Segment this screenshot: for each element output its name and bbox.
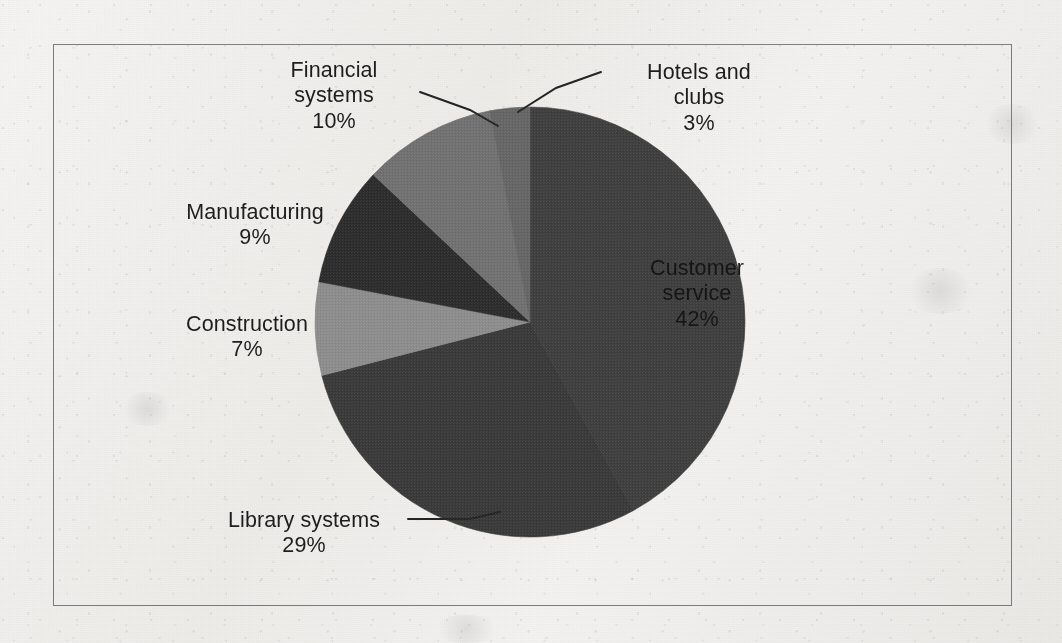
slice-label-text-line1: Financial (291, 58, 378, 82)
slice-label-hotels-and-clubs: Hotels and clubs 3% (604, 60, 794, 136)
slice-label-percent: 3% (604, 111, 794, 136)
slice-label-financial-systems: Financial systems 10% (236, 58, 432, 134)
slice-label-text-line1: Customer (650, 256, 744, 280)
slice-label-text-line2: clubs (674, 85, 725, 109)
slice-label-construction: Construction 7% (136, 312, 358, 363)
slice-label-library-systems: Library systems 29% (186, 508, 422, 559)
slice-label-text-line1: Hotels and (647, 60, 751, 84)
slice-label-text-line2: service (663, 281, 732, 305)
slice-label-text-line2: systems (294, 83, 374, 107)
slice-leader-line (518, 72, 601, 112)
slice-label-percent: 9% (140, 225, 370, 250)
slice-label-text-line1: Library systems (228, 508, 380, 532)
slice-label-percent: 10% (236, 109, 432, 134)
slice-label-customer-service: Customer service 42% (608, 256, 786, 332)
slice-label-percent: 42% (608, 307, 786, 332)
slice-label-text-line1: Construction (186, 312, 308, 336)
slice-label-percent: 29% (186, 533, 422, 558)
slice-label-text-line1: Manufacturing (186, 200, 324, 224)
pie-chart-screenshot: Financial systems 10% Hotels and clubs 3… (0, 0, 1062, 643)
slice-label-percent: 7% (136, 337, 358, 362)
slice-label-manufacturing: Manufacturing 9% (140, 200, 370, 251)
